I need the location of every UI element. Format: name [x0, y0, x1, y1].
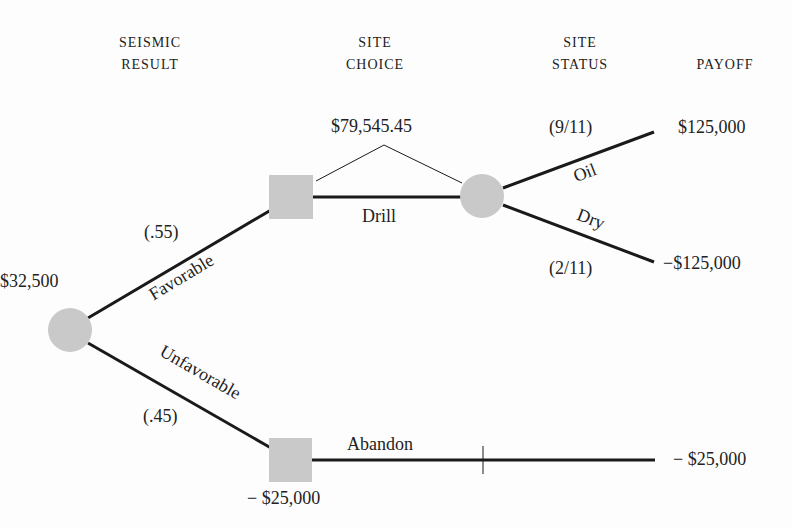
- favorable-prob: (.55): [144, 222, 179, 243]
- header-payoff: PAYOFF: [670, 54, 780, 76]
- favorable-decision-node: [269, 175, 313, 219]
- unfavorable-decision-value: − $25,000: [247, 488, 320, 509]
- header-line: SEISMIC: [100, 32, 200, 54]
- dry-payoff: −$125,000: [663, 253, 741, 274]
- header-line: SITE: [530, 32, 630, 54]
- drill-chance-node: [460, 174, 504, 218]
- abandon-label: Abandon: [347, 434, 413, 455]
- dry-prob: (2/11): [549, 258, 592, 279]
- header-line: SITE: [325, 32, 425, 54]
- decision-tree: SEISMIC RESULT SITE CHOICE SITE STATUS P…: [0, 0, 792, 529]
- root-value: $32,500: [0, 271, 59, 292]
- header-site-choice: SITE CHOICE: [325, 32, 425, 76]
- abandon-payoff: − $25,000: [673, 449, 746, 470]
- header-line: CHOICE: [325, 54, 425, 76]
- header-line: RESULT: [100, 54, 200, 76]
- header-seismic-result: SEISMIC RESULT: [100, 32, 200, 76]
- drill-label: Drill: [362, 206, 396, 227]
- unfavorable-prob: (.45): [143, 406, 178, 427]
- oil-prob: (9/11): [549, 117, 592, 138]
- favorable-decision-value: $79,545.45: [331, 116, 412, 137]
- header-site-status: SITE STATUS: [530, 32, 630, 76]
- value-bracket: [316, 145, 462, 183]
- oil-payoff: $125,000: [678, 117, 746, 138]
- favorable-branch: [88, 210, 271, 318]
- root-chance-node: [48, 308, 92, 352]
- header-line: STATUS: [530, 54, 630, 76]
- unfavorable-decision-node: [269, 438, 312, 482]
